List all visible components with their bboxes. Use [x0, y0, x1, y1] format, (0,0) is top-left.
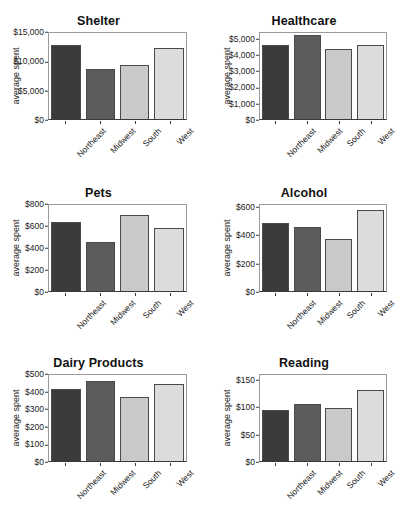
x-axis-label-northeast: Northeast	[285, 126, 318, 159]
y-axis-tick-label: $5,000	[18, 86, 44, 95]
y-axis-tick-label: $600	[25, 222, 44, 231]
x-axis-tick	[275, 293, 276, 296]
x-axis-tick	[275, 463, 276, 466]
x-axis-label-midwest: Midwest	[315, 298, 344, 327]
x-axis-label-west: West	[174, 468, 195, 489]
plot-area	[259, 204, 387, 292]
y-axis-tick-label: $0	[246, 288, 255, 297]
bar-west[interactable]	[357, 210, 384, 291]
chart-panel-alcohol: Alcoholaverage spent$0$200$400$600Northe…	[197, 172, 397, 342]
x-axis-tick	[339, 463, 340, 466]
y-axis-tick-label: $100	[25, 440, 44, 449]
x-axis-tick	[100, 121, 101, 124]
bar-west[interactable]	[154, 384, 183, 461]
bar-group	[260, 205, 386, 291]
plot-area	[48, 204, 187, 292]
y-axis-tick-label: $5,000	[229, 34, 255, 43]
x-axis-tick	[65, 463, 66, 466]
panel-title: Reading	[197, 356, 397, 370]
bar-midwest[interactable]	[294, 227, 321, 291]
x-axis-label-west: West	[174, 298, 195, 319]
y-axis-tick-label: $100	[236, 403, 255, 412]
chart-panel-shelter: Shelteraverage spent$0$5,000$10,000$15,0…	[0, 0, 197, 172]
y-axis-tick-label: $2,000	[229, 83, 255, 92]
x-axis-label-south: South	[345, 298, 368, 321]
bar-northeast[interactable]	[262, 45, 289, 119]
bar-midwest[interactable]	[294, 35, 321, 119]
x-axis-label-midwest: Midwest	[315, 126, 344, 155]
bar-northeast[interactable]	[51, 222, 80, 291]
bar-group	[49, 33, 186, 119]
y-axis-tick-label: $800	[25, 200, 44, 209]
x-axis-tick	[371, 463, 372, 466]
x-axis-tick	[307, 293, 308, 296]
y-axis-tick-label: $10,000	[13, 57, 44, 66]
x-axis-label-northeast: Northeast	[75, 126, 108, 159]
bar-northeast[interactable]	[51, 45, 80, 120]
plot-area	[48, 32, 187, 120]
bar-west[interactable]	[154, 228, 183, 291]
y-axis-tick-label: $400	[25, 244, 44, 253]
bar-south[interactable]	[120, 65, 149, 119]
x-axis-tick	[371, 293, 372, 296]
y-axis-tick-label: $600	[236, 203, 255, 212]
bar-group	[49, 205, 186, 291]
panel-title: Healthcare	[197, 14, 397, 28]
y-axis-tick-label: $4,000	[229, 51, 255, 60]
x-axis-labels: NortheastMidwestSouthWest	[259, 463, 387, 503]
x-axis-tick	[371, 121, 372, 124]
x-axis-tick	[65, 121, 66, 124]
bar-west[interactable]	[357, 390, 384, 461]
y-axis-ticks: $0$50$100$150	[215, 374, 259, 462]
x-axis-label-south: South	[345, 126, 368, 149]
bar-northeast[interactable]	[262, 410, 289, 461]
small-multiples-figure: Shelteraverage spent$0$5,000$10,000$15,0…	[0, 0, 397, 516]
bar-south[interactable]	[325, 408, 352, 461]
x-axis-tick	[339, 293, 340, 296]
chart-panel-healthcare: Healthcareaverage spent$0$1,000$2,000$3,…	[197, 0, 397, 172]
y-axis-tick-label: $0	[246, 458, 255, 467]
y-axis-ticks: $0$1,000$2,000$3,000$4,000$5,000	[215, 32, 259, 120]
x-axis-label-midwest: Midwest	[108, 126, 137, 155]
x-axis-label-west: West	[174, 126, 195, 147]
x-axis-labels: NortheastMidwestSouthWest	[48, 293, 187, 333]
bar-northeast[interactable]	[51, 389, 80, 461]
y-axis-tick-label: $150	[236, 375, 255, 384]
bar-midwest[interactable]	[86, 69, 115, 119]
bar-south[interactable]	[120, 215, 149, 291]
x-axis-label-northeast: Northeast	[285, 298, 318, 331]
plot-area	[259, 374, 387, 462]
y-axis-tick-label: $500	[25, 370, 44, 379]
plot-area	[48, 374, 187, 462]
x-axis-tick	[307, 463, 308, 466]
y-axis-tick-label: $0	[246, 116, 255, 125]
bar-midwest[interactable]	[86, 381, 115, 461]
y-axis-tick-label: $200	[25, 423, 44, 432]
bar-south[interactable]	[325, 49, 352, 119]
y-axis-tick-label: $1,000	[229, 99, 255, 108]
chart-panel-dairy-products: Dairy Productsaverage spent$0$100$200$30…	[0, 342, 197, 516]
x-axis-label-northeast: Northeast	[75, 298, 108, 331]
y-axis-tick-label: $0	[35, 458, 44, 467]
x-axis-tick	[339, 121, 340, 124]
bar-south[interactable]	[325, 239, 352, 291]
x-axis-labels: NortheastMidwestSouthWest	[48, 463, 187, 503]
y-axis-tick-label: $0	[35, 116, 44, 125]
x-axis-label-west: West	[376, 126, 397, 147]
y-axis-tick-label: $200	[25, 266, 44, 275]
bar-midwest[interactable]	[86, 242, 115, 291]
bar-west[interactable]	[357, 45, 384, 119]
x-axis-tick	[170, 121, 171, 124]
bar-south[interactable]	[120, 397, 149, 461]
x-axis-label-midwest: Midwest	[108, 468, 137, 497]
x-axis-label-west: West	[376, 298, 397, 319]
x-axis-tick	[100, 463, 101, 466]
y-axis-ticks: $0$100$200$300$400$500	[4, 374, 48, 462]
bar-midwest[interactable]	[294, 404, 321, 461]
x-axis-tick	[170, 293, 171, 296]
bar-group	[260, 33, 386, 119]
bar-west[interactable]	[154, 48, 183, 119]
x-axis-tick	[135, 293, 136, 296]
y-axis-ticks: $0$200$400$600	[215, 204, 259, 292]
bar-northeast[interactable]	[262, 223, 289, 291]
